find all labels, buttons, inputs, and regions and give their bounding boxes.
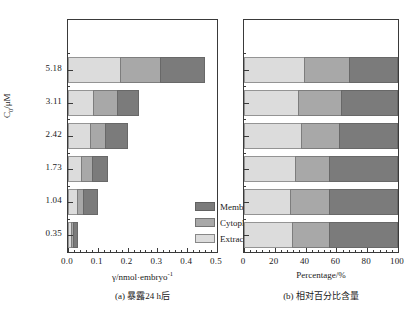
y-tick-label: 1.73 — [28, 162, 62, 172]
x-tick-minor — [386, 250, 387, 252]
bar-row — [68, 123, 128, 149]
panel-b-caption: (b) 相对百分比含量 — [233, 289, 409, 302]
x-tick-minor — [169, 250, 170, 252]
x-tick-minor — [256, 250, 257, 252]
x-tick-minor — [151, 250, 152, 252]
x-tick-major — [275, 248, 276, 252]
bar-segment-cytoplasm — [290, 189, 329, 215]
panel-b-x-axis-title: Percentage/% — [243, 270, 399, 280]
x-tick-minor — [181, 250, 182, 252]
legend-swatch-extracellular — [195, 234, 215, 243]
y-tick-major — [244, 235, 249, 236]
y-tick-major — [244, 202, 249, 203]
bar-segment-cytoplasm — [298, 90, 341, 116]
bar-segment-membrane — [329, 156, 398, 182]
bar-segment-extracellular — [244, 123, 301, 149]
x-tick-minor — [318, 250, 319, 252]
y-tick-major — [68, 103, 73, 104]
y-tick-minor — [244, 219, 246, 220]
x-tick-minor — [312, 250, 313, 252]
y-tick-minor — [68, 119, 70, 120]
panel-a-y-axis-title: C0/μM — [2, 93, 14, 118]
x-tick-major — [157, 248, 158, 252]
y-tick-major — [68, 136, 73, 137]
x-tick-minor — [361, 250, 362, 252]
x-tick-minor — [392, 250, 393, 252]
bar-segment-membrane — [349, 57, 398, 83]
bar-segment-cytoplasm — [93, 90, 117, 116]
y-tick-major — [68, 70, 73, 71]
panel-a-plot-area: Membrane Cytoplasm Extracellular — [67, 19, 218, 253]
x-tick-minor — [134, 250, 135, 252]
x-tick-minor — [293, 250, 294, 252]
y-tick-minor — [244, 86, 246, 87]
y-tick-label: 1.04 — [28, 195, 62, 205]
y-tick-major — [68, 235, 73, 236]
y-tick-major — [244, 103, 249, 104]
x-tick-label: 100 — [380, 256, 414, 266]
panel-b: 020406080100 Percentage/% (b) 相对百分比含量 — [216, 0, 416, 328]
x-tick-major — [306, 248, 307, 252]
x-tick-minor — [86, 250, 87, 252]
y-tick-label: 5.18 — [28, 63, 62, 73]
legend-swatch-cytoplasm — [195, 218, 215, 227]
y-tick-major — [244, 70, 249, 71]
bar-row — [244, 57, 398, 83]
bar-segment-membrane — [329, 189, 398, 215]
x-tick-label: 0 — [226, 256, 260, 266]
x-tick-minor — [92, 250, 93, 252]
x-tick-major — [336, 248, 337, 252]
x-tick-major — [128, 248, 129, 252]
x-tick-minor — [380, 250, 381, 252]
bar-row — [68, 156, 108, 182]
bar-segment-membrane — [73, 222, 77, 248]
x-tick-minor — [211, 250, 212, 252]
y-tick-minor — [68, 153, 70, 154]
panel-b-bars — [244, 20, 398, 252]
x-tick-minor — [199, 250, 200, 252]
x-tick-minor — [163, 250, 164, 252]
bar-row — [68, 57, 205, 83]
bar-segment-membrane — [105, 123, 128, 149]
x-tick-minor — [349, 250, 350, 252]
x-tick-minor — [110, 250, 111, 252]
x-tick-minor — [145, 250, 146, 252]
x-tick-minor — [175, 250, 176, 252]
y-tick-minor — [244, 53, 246, 54]
y-tick-minor — [68, 86, 70, 87]
bar-segment-extracellular — [68, 57, 120, 83]
x-tick-minor — [355, 250, 356, 252]
bar-row — [244, 156, 398, 182]
bar-segment-cytoplasm — [90, 123, 105, 149]
y-tick-minor — [244, 153, 246, 154]
y-tick-major — [68, 169, 73, 170]
bar-segment-membrane — [341, 90, 398, 116]
y-axis-symbol: C — [2, 112, 12, 118]
bar-row — [244, 222, 398, 248]
panel-a: C0/μM Membrane Cytoplasm Extracellular — [0, 0, 216, 328]
panel-a-caption: (a) 暴露24 h后 — [57, 289, 228, 302]
y-axis-unit: /μM — [2, 93, 12, 108]
x-tick-label: 80 — [349, 256, 383, 266]
x-tick-major — [187, 248, 188, 252]
bar-segment-cytoplasm — [120, 57, 161, 83]
bar-segment-membrane — [329, 222, 398, 248]
bar-row — [244, 123, 398, 149]
y-tick-major — [244, 136, 249, 137]
y-tick-minor — [244, 186, 246, 187]
y-tick-major — [68, 202, 73, 203]
y-tick-label: 2.42 — [28, 129, 62, 139]
bar-segment-cytoplasm — [301, 123, 340, 149]
bar-segment-cytoplasm — [81, 156, 92, 182]
y-tick-minor — [68, 53, 70, 54]
bar-row — [68, 90, 139, 116]
y-tick-minor — [68, 219, 70, 220]
x-tick-major — [367, 248, 368, 252]
x-tick-minor — [262, 250, 263, 252]
bar-segment-membrane — [160, 57, 205, 83]
x-tick-minor — [205, 250, 206, 252]
x-tick-minor — [80, 250, 81, 252]
x-tick-minor — [104, 250, 105, 252]
bar-row — [244, 90, 398, 116]
bar-segment-cytoplasm — [292, 222, 329, 248]
